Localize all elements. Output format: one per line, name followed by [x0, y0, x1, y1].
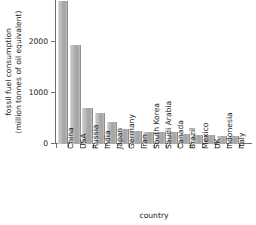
bar — [58, 1, 68, 144]
x-axis-tick-label: Japan — [115, 128, 124, 149]
x-axis-tick-label: Brazil — [188, 128, 197, 149]
chart-screenshot: fossil fuel consumption (million tonnes … — [0, 0, 256, 225]
y-axis-title-line-2: (million tonnes of oil equivalent) — [14, 0, 24, 144]
x-axis-tick-label: South Korea — [152, 103, 161, 149]
y-axis-title: fossil fuel consumption (million tonnes … — [4, 0, 23, 144]
x-axis-tick-label: Saudi Arabia — [164, 101, 173, 149]
y-axis-title-area: fossil fuel consumption (million tonnes … — [0, 0, 30, 150]
x-axis-tick-label: USA — [79, 133, 88, 149]
y-axis-tick-label: 2000 — [29, 37, 48, 46]
x-axis-tick-label: Iran — [140, 134, 149, 149]
x-axis-tick-label: Germany — [127, 114, 136, 149]
x-axis-tick-label: Italy — [237, 133, 246, 149]
x-axis-tick-label: Canada — [176, 120, 185, 149]
x-axis-tick-label: UK — [213, 138, 222, 149]
x-axis-tick-label: Russia — [91, 125, 100, 149]
x-axis-tick-label: India — [103, 130, 112, 149]
x-axis-title: country — [56, 211, 252, 220]
x-axis-tick-label: Mexico — [201, 122, 210, 149]
x-axis-tick — [56, 144, 57, 148]
y-axis-tick-label: 1000 — [29, 88, 48, 97]
x-axis-tick-label: China — [66, 127, 75, 149]
y-axis-tick-label: 0 — [43, 139, 48, 148]
x-axis-tick-label: Indonesia — [225, 112, 234, 149]
y-axis-title-line-1: fossil fuel consumption — [4, 28, 13, 116]
